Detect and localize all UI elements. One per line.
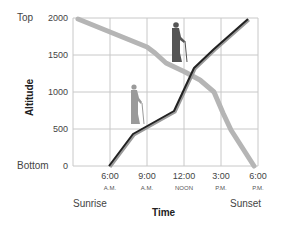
x-tick-3pm-sub: P.M. — [201, 185, 241, 191]
x-tick-9am-sub: A.M. — [127, 185, 167, 191]
y-tick-2000: 2000 — [38, 13, 68, 23]
x-axis-title: Time — [152, 207, 175, 218]
y-tick-1500: 1500 — [38, 50, 68, 60]
x-tick-6pm: 6:00 — [238, 171, 278, 181]
top-label: Top — [17, 12, 33, 23]
x-tick-9am: 9:00 — [127, 171, 167, 181]
x-tick-6am-sub: A.M. — [90, 185, 130, 191]
grid — [73, 18, 258, 166]
x-tick-12pm: 12:00 — [164, 171, 204, 181]
x-tick-3pm: 3:00 — [201, 171, 241, 181]
x-tick-6am: 6:00 — [90, 171, 130, 181]
hiker-descending-icon — [172, 22, 187, 62]
hiker-ascending-icon — [131, 84, 144, 124]
y-tick-500: 500 — [38, 124, 68, 134]
x-tick-12pm-sub: NOON — [164, 185, 204, 191]
y-tick-1000: 1000 — [38, 87, 68, 97]
y-tick-0: 0 — [38, 161, 68, 171]
x-tick-6pm-sub: P.M. — [238, 185, 278, 191]
chart-plot — [0, 0, 281, 227]
sunrise-label: Sunrise — [73, 198, 107, 209]
y-axis-title: Altitude — [24, 73, 35, 123]
sunset-label: Sunset — [230, 198, 261, 209]
